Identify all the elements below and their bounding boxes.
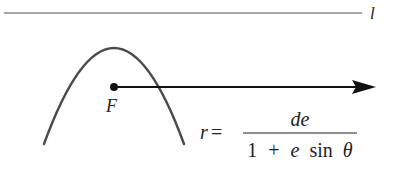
polar-equation: r = de 1 + e sin θ [200,108,357,161]
focus-label: F [105,96,118,116]
directrix-label: l [370,4,375,23]
denominator-sin: sin [310,139,333,161]
equation-equals: = [211,121,222,143]
denominator-theta: θ [343,139,353,161]
denominator-plus: + [268,139,279,161]
denominator-one: 1 [247,139,257,161]
equation-denominator: 1 + e sin θ [247,139,353,161]
conic-polar-diagram: l F r = de 1 + e sin θ [0,0,395,169]
denominator-e: e [291,139,300,161]
equation-numerator: de [291,108,310,130]
focus-point [110,83,118,91]
equation-lhs: r [200,121,208,143]
